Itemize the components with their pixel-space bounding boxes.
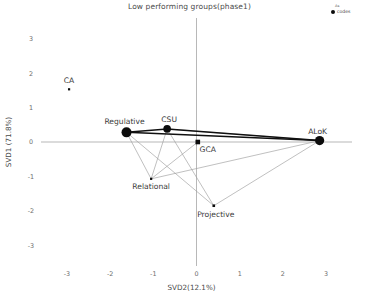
y-tick-label: 3 (29, 35, 33, 43)
data-point-label: Projective (197, 210, 235, 219)
edge-line (151, 129, 167, 179)
edge-line (127, 132, 214, 205)
edge-line (127, 132, 152, 179)
x-tick-label: -2 (107, 270, 113, 278)
x-tick-label: -1 (150, 270, 156, 278)
y-tick-label: -2 (28, 207, 34, 215)
edge-line (151, 141, 319, 179)
y-tick-label: 0 (29, 138, 33, 146)
data-point-marker[interactable] (212, 204, 215, 207)
edge-line-thick (127, 129, 168, 132)
data-point-marker[interactable] (315, 136, 324, 145)
x-tick-label: 3 (324, 270, 328, 278)
y-axis-title: SVD1 (71.8%) (4, 117, 13, 168)
scatter-plot-svg: -3-2-101233210-1-2-3SVD2(12.1%)SVD1 (71.… (0, 0, 379, 300)
x-tick-label: 0 (194, 270, 198, 278)
y-tick-label: 2 (29, 70, 33, 78)
plot-canvas: -3-2-101233210-1-2-3SVD2(12.1%)SVD1 (71.… (0, 0, 379, 300)
chart-page: Low performing groups(phase1) As codes -… (0, 0, 379, 300)
data-point-marker[interactable] (122, 127, 132, 137)
edge-line (167, 129, 214, 206)
data-point-marker[interactable] (150, 178, 152, 180)
data-point-marker[interactable] (163, 125, 171, 133)
y-tick-label: -1 (28, 173, 34, 181)
data-point-marker[interactable] (68, 88, 70, 90)
data-point-marker[interactable] (195, 140, 200, 145)
y-tick-label: -3 (28, 242, 34, 250)
x-tick-label: -3 (64, 270, 70, 278)
edge-line (214, 141, 320, 206)
data-point-label: CA (64, 76, 75, 85)
y-tick-label: 1 (29, 104, 33, 112)
x-axis-title: SVD2(12.1%) (167, 283, 215, 292)
x-tick-label: 1 (238, 270, 242, 278)
data-point-label: CSU (161, 115, 177, 124)
data-point-label: Regulative (104, 117, 145, 126)
x-tick-label: 2 (281, 270, 285, 278)
data-point-label: ALoK (308, 127, 328, 136)
data-point-label: Relational (132, 182, 170, 191)
data-point-label: GCA (200, 145, 217, 154)
